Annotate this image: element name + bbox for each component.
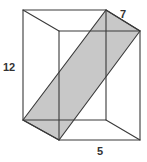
height-label: 12 [3,61,15,73]
width-label: 5 [97,145,103,157]
edge-top-left [23,10,59,31]
depth-label: 7 [120,8,126,20]
prism-diagram: 7 12 5 [0,0,147,162]
edge-bottom-right [106,120,140,140]
